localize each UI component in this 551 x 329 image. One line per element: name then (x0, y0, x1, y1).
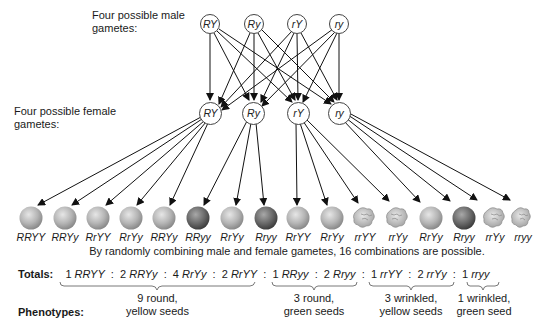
phenotype-wrinkled-yellow: 3 wrinkled, yellow seeds (366, 292, 456, 318)
phenotype-round-green: 3 round, green seeds (270, 292, 358, 318)
seed-round-yellow (20, 207, 443, 230)
phenotype-wrinkled-green: 1 wrinkled, green seed (452, 292, 516, 318)
combination-caption: By randomly combining male and female ga… (72, 245, 502, 257)
phenotype-round-yellow: 9 round, yellow seeds (110, 292, 205, 318)
totals-label: Totals: (18, 268, 53, 280)
offspring-label: rryy (503, 231, 543, 243)
phenotypes-label: Phenotypes: (18, 306, 84, 318)
totals-row: Totals: 1 RRYY : 2 RRYy : 4 RrYy : 2 RrY… (18, 268, 490, 280)
